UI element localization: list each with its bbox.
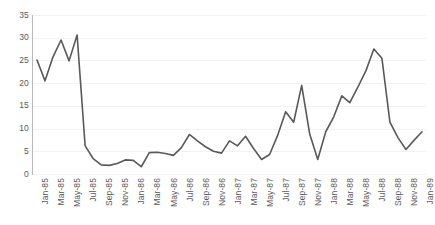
y-tick-label: 5	[0, 147, 29, 156]
x-tick-label: Jul-88	[377, 178, 387, 202]
y-tick-label: 15	[0, 101, 29, 110]
y-tick-label: 10	[0, 124, 29, 133]
x-tick-label: May-88	[361, 178, 371, 207]
x-tick-label: Jan-89	[425, 178, 435, 205]
line-chart: 05101520253035 Jan-85Mar-85May-85Jul-85S…	[0, 0, 435, 225]
x-tick-label: Sep-85	[104, 178, 114, 206]
y-tick-label: 20	[0, 79, 29, 88]
gridline	[33, 174, 426, 175]
y-tick-label: 30	[0, 33, 29, 42]
x-tick-label: Jan-88	[329, 178, 339, 205]
x-tick-label: Nov-87	[313, 178, 323, 206]
plot-area	[33, 15, 426, 174]
x-tick-label: Mar-88	[345, 178, 355, 206]
x-axis-tick-labels: Jan-85Mar-85May-85Jul-85Sep-85Nov-85Jan-…	[0, 178, 435, 225]
y-tick-label: 35	[0, 11, 29, 20]
x-tick-label: Jul-86	[185, 178, 195, 202]
x-tick-label: Jan-87	[233, 178, 243, 205]
x-tick-label: May-87	[265, 178, 275, 207]
x-tick-label: Mar-85	[56, 178, 66, 206]
y-tick-label: 25	[0, 56, 29, 65]
x-tick-label: Jul-85	[88, 178, 98, 202]
chart-title	[0, 0, 435, 10]
x-tick-label: Nov-88	[409, 178, 419, 206]
x-tick-label: Nov-86	[217, 178, 227, 206]
series-polyline	[37, 35, 422, 167]
series-line	[33, 15, 426, 174]
x-tick-label: May-86	[169, 178, 179, 207]
x-tick-label: Mar-86	[152, 178, 162, 206]
x-tick-label: Jul-87	[281, 178, 291, 202]
x-tick-label: Sep-86	[201, 178, 211, 206]
x-tick-label: Nov-85	[120, 178, 130, 206]
x-tick-label: Sep-88	[393, 178, 403, 206]
x-tick-label: Jan-86	[136, 178, 146, 205]
x-tick-label: Jan-85	[40, 178, 50, 205]
x-tick-label: May-85	[72, 178, 82, 207]
x-tick-label: Sep-87	[297, 178, 307, 206]
x-tick-label: Mar-87	[249, 178, 259, 206]
